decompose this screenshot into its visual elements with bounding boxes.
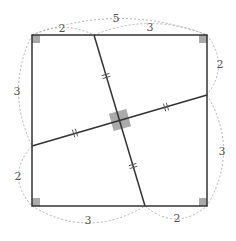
label-right-bottom: 3: [219, 145, 226, 158]
label-top-left: 2: [59, 22, 66, 35]
segment-left-right: [32, 95, 207, 146]
label-left-top: 3: [14, 85, 21, 98]
right-angle-mark-top-left: [32, 35, 40, 43]
label-bottom-left: 3: [85, 214, 92, 227]
geometry-diagram: 5 2 3 2 3 2 3 2 3: [0, 0, 236, 241]
label-top-right: 3: [147, 21, 154, 34]
right-angle-mark-bottom-left: [32, 198, 40, 206]
arc-left-top: [19, 35, 33, 146]
label-left-bottom: 2: [15, 170, 22, 183]
right-angle-mark-top-right: [199, 35, 207, 43]
right-angle-mark-bottom-right: [199, 198, 207, 206]
label-right-top: 2: [217, 58, 224, 71]
label-bottom-right: 2: [174, 212, 181, 225]
label-top-full: 5: [113, 12, 120, 25]
